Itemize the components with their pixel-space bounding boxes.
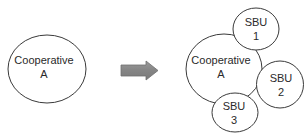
sbu-1-label-line2: 1: [253, 30, 259, 42]
sbu-3-node: SBU 3: [212, 93, 258, 132]
cooperative-a-label-line1: Cooperative: [14, 54, 73, 66]
sbu-2-node: SBU 2: [257, 61, 304, 108]
cooperative-restructuring-diagram: Cooperative A Cooperative A SBU 1 SBU 2: [0, 0, 306, 139]
sbu-2-label-line1: SBU: [270, 72, 293, 84]
sbu-1-circle: [233, 8, 279, 50]
cooperative-a-label-line2: A: [40, 68, 48, 80]
after-cooperative-cluster: Cooperative A SBU 1 SBU 2 SBU 3: [186, 8, 304, 132]
right-arrow-icon: [121, 61, 158, 80]
before-cooperative-node: Cooperative A: [8, 35, 86, 103]
sbu-2-label-line2: 2: [278, 86, 284, 98]
sbu-1-node: SBU 1: [233, 8, 279, 50]
sbu-3-circle: [212, 93, 258, 132]
sbu-3-label-line2: 3: [231, 114, 237, 126]
core-cooperative-label-line1: Cooperative: [191, 54, 250, 66]
sbu-2-circle: [257, 61, 304, 108]
sbu-1-label-line1: SBU: [245, 16, 268, 28]
sbu-3-label-line1: SBU: [223, 100, 246, 112]
core-cooperative-label-line2: A: [217, 68, 225, 80]
